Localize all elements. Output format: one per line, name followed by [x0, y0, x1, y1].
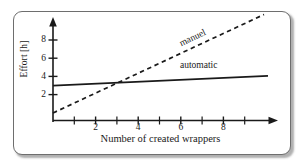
- y-tick-label-2: 2: [34, 89, 46, 99]
- plot-area: Effort [h] Number of created wrappers 2 …: [0, 0, 303, 164]
- figure-container: Effort [h] Number of created wrappers 2 …: [0, 0, 303, 164]
- series-line-automatic: [53, 76, 268, 86]
- series-label-automatic: automatic: [180, 60, 217, 70]
- y-tick-label-8: 8: [34, 34, 46, 44]
- x-tick-label-6: 6: [174, 122, 188, 132]
- x-tick-label-4: 4: [131, 122, 145, 132]
- x-axis-label: Number of created wrappers: [53, 133, 268, 144]
- y-tick-label-6: 6: [34, 53, 46, 63]
- y-tick-label-4: 4: [34, 71, 46, 81]
- y-axis-label: Effort [h]: [19, 29, 29, 89]
- series-line-manuel: [53, 15, 264, 114]
- x-tick-label-2: 2: [89, 122, 103, 132]
- x-tick-label-8: 8: [216, 122, 230, 132]
- y-axis: [49, 17, 57, 122]
